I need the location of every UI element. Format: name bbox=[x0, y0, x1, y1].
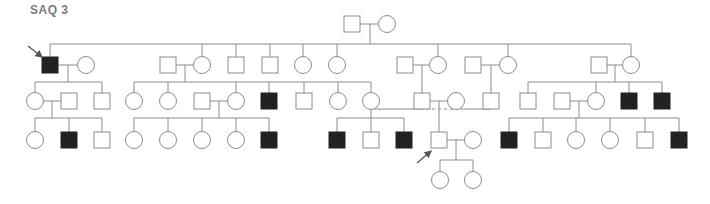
affected-male-square bbox=[329, 132, 345, 148]
affected-male-square bbox=[61, 132, 77, 148]
female-circle bbox=[228, 93, 245, 110]
female-circle bbox=[160, 132, 177, 149]
female-circle bbox=[160, 93, 177, 110]
female-circle bbox=[126, 132, 143, 149]
male-square bbox=[194, 93, 210, 109]
pedigree-chart bbox=[0, 0, 710, 204]
male-square bbox=[554, 93, 570, 109]
affected-male-square bbox=[501, 132, 517, 148]
female-circle bbox=[330, 93, 347, 110]
female-circle bbox=[448, 93, 465, 110]
male-square bbox=[535, 132, 551, 148]
affected-male-square bbox=[671, 132, 687, 148]
proband-arrow-icon bbox=[417, 151, 431, 163]
affected-male-square bbox=[261, 132, 277, 148]
individuals bbox=[27, 16, 688, 189]
male-square bbox=[228, 57, 244, 73]
proband-arrow-icon bbox=[28, 46, 42, 57]
female-circle bbox=[363, 93, 380, 110]
male-square bbox=[363, 132, 379, 148]
male-square bbox=[94, 132, 110, 148]
female-circle bbox=[329, 57, 346, 74]
male-square bbox=[431, 132, 447, 148]
male-square bbox=[397, 57, 413, 73]
male-square bbox=[465, 57, 481, 73]
affected-male-square bbox=[42, 57, 58, 73]
female-circle bbox=[465, 132, 482, 149]
female-circle bbox=[432, 172, 449, 189]
male-square bbox=[94, 93, 110, 109]
female-circle bbox=[126, 93, 143, 110]
female-circle bbox=[194, 57, 211, 74]
female-circle bbox=[568, 132, 585, 149]
female-circle bbox=[295, 57, 312, 74]
male-square bbox=[61, 93, 77, 109]
male-square bbox=[160, 57, 176, 73]
female-circle bbox=[194, 132, 211, 149]
male-square bbox=[296, 93, 312, 109]
affected-male-square bbox=[396, 132, 412, 148]
female-circle bbox=[27, 132, 44, 149]
affected-male-square bbox=[621, 93, 637, 109]
male-square bbox=[414, 93, 430, 109]
female-circle bbox=[27, 93, 44, 110]
male-square bbox=[637, 132, 653, 148]
female-circle bbox=[430, 57, 447, 74]
affected-male-square bbox=[654, 93, 670, 109]
male-square bbox=[591, 57, 607, 73]
female-circle bbox=[228, 132, 245, 149]
female-circle bbox=[78, 57, 95, 74]
male-square bbox=[344, 16, 360, 32]
female-circle bbox=[588, 93, 605, 110]
male-square bbox=[483, 93, 499, 109]
male-square bbox=[520, 93, 536, 109]
female-circle bbox=[623, 57, 640, 74]
female-circle bbox=[500, 57, 517, 74]
male-square bbox=[262, 57, 278, 73]
female-circle bbox=[602, 132, 619, 149]
female-circle bbox=[465, 172, 482, 189]
affected-male-square bbox=[261, 93, 277, 109]
female-circle bbox=[379, 16, 396, 33]
